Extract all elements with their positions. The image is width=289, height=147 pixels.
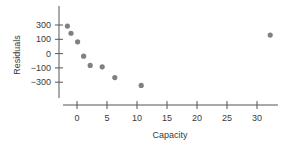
x-axis: 051015202530: [63, 101, 278, 123]
x-tick-label: 0: [74, 113, 79, 123]
y-tick-label: 100: [36, 34, 51, 44]
y-tick-label: −100: [31, 63, 51, 73]
data-point: [65, 24, 70, 29]
x-axis-label: Capacity: [152, 130, 188, 140]
y-axis: 3001000−100−300: [31, 6, 63, 98]
x-tick-label: 15: [162, 113, 172, 123]
x-tick-label: 30: [252, 113, 262, 123]
x-tick-label: 20: [192, 113, 202, 123]
data-point: [68, 31, 73, 36]
y-axis-label: Residuals: [12, 35, 22, 75]
y-tick-label: 0: [46, 49, 51, 59]
data-point: [100, 64, 105, 69]
residual-scatter-plot: 3001000−100−300 051015202530 Residuals C…: [0, 0, 289, 147]
data-point: [112, 75, 117, 80]
y-tick-label: −300: [31, 77, 51, 87]
x-tick-label: 25: [222, 113, 232, 123]
data-point: [139, 83, 144, 88]
y-tick-label: 300: [36, 20, 51, 30]
data-points: [65, 24, 273, 89]
data-point: [81, 54, 86, 59]
x-tick-label: 10: [132, 113, 142, 123]
data-point: [88, 63, 93, 68]
data-point: [268, 32, 273, 37]
x-tick-label: 5: [104, 113, 109, 123]
data-point: [75, 39, 80, 44]
